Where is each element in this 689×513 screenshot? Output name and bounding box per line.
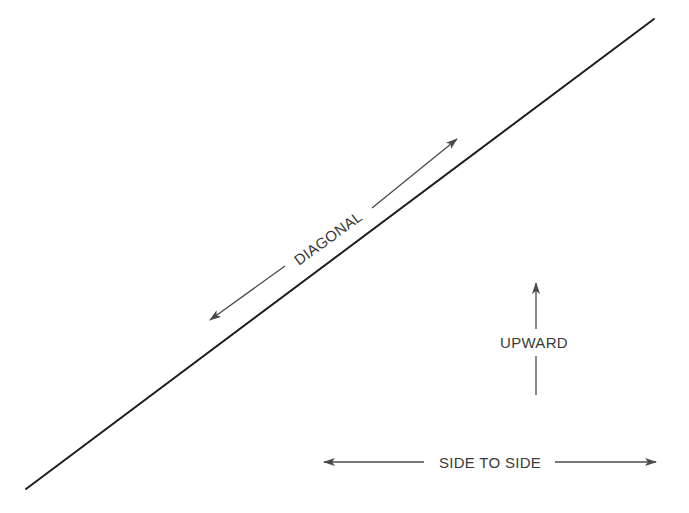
side-to-side-arrow: SIDE TO SIDE [324, 454, 656, 471]
upward-arrow: UPWARD [500, 283, 568, 395]
movement-directions-diagram: DIAGONAL UPWARD SIDE TO SIDE [0, 0, 689, 513]
diagonal-arrow-lower-segment [210, 266, 285, 320]
side-to-side-label: SIDE TO SIDE [439, 454, 541, 471]
upward-label: UPWARD [500, 334, 568, 351]
main-diagonal-line [26, 19, 654, 489]
diagonal-label: DIAGONAL [291, 208, 366, 269]
diagonal-arrow: DIAGONAL [210, 139, 457, 320]
